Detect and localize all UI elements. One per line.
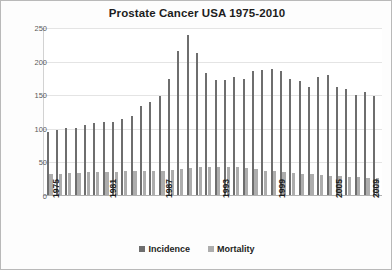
bar-mortality: [273, 171, 276, 195]
x-axis-ticks: 1975198119871993199920052009: [43, 198, 382, 240]
page-title: Prostate Cancer USA 1975-2010: [1, 7, 392, 19]
bar-group: [344, 28, 353, 195]
bar-group: [82, 28, 91, 195]
bar-group: [101, 28, 110, 195]
bar-group: [166, 28, 175, 195]
bar-group: [232, 28, 241, 195]
bar-group: [288, 28, 297, 195]
bar-group: [334, 28, 343, 195]
bar-mortality: [245, 168, 248, 195]
bar-mortality: [264, 171, 267, 195]
bar-group: [176, 28, 185, 195]
bar-mortality: [366, 178, 369, 195]
y-tick-label: 150: [21, 91, 47, 100]
bar-mortality: [180, 169, 183, 195]
bar-mortality: [310, 174, 313, 195]
bar-group: [306, 28, 315, 195]
y-tick-label: 50: [21, 158, 47, 167]
y-tick-label: 200: [21, 57, 47, 66]
bar-group: [54, 28, 63, 195]
bar-group: [45, 28, 54, 195]
bar-group: [213, 28, 222, 195]
bar-mortality: [143, 171, 146, 195]
bar-mortality: [87, 172, 90, 195]
bar-mortality: [357, 177, 360, 195]
y-tick-label: 250: [21, 24, 47, 33]
bar-mortality: [236, 167, 239, 195]
bar-mortality: [301, 174, 304, 196]
bar-mortality: [329, 176, 332, 195]
bar-group: [250, 28, 259, 195]
bar-group: [129, 28, 138, 195]
legend-item[interactable]: Incidence: [139, 244, 190, 254]
bar-group: [185, 28, 194, 195]
bar-mortality: [292, 173, 295, 195]
bar-mortality: [96, 172, 99, 195]
bar-group: [204, 28, 213, 195]
y-tick-label: 100: [21, 124, 47, 133]
bar-group: [353, 28, 362, 195]
x-tick-label: 1987: [164, 179, 174, 198]
bar-mortality: [217, 167, 220, 195]
bar-mortality: [124, 171, 127, 195]
x-tick-label: 1993: [221, 179, 231, 198]
bar-group: [222, 28, 231, 195]
bar-mortality: [68, 173, 71, 195]
chart-figure: Prostate Cancer USA 1975-2010 Age Adjust…: [0, 0, 392, 270]
bar-group: [269, 28, 278, 195]
bar-series-container: [44, 28, 382, 195]
bar-mortality: [254, 169, 257, 195]
bar-group: [241, 28, 250, 195]
plot-area: [43, 28, 382, 196]
x-tick-label: 1999: [277, 179, 287, 198]
bar-mortality: [189, 168, 192, 195]
bar-group: [110, 28, 119, 195]
bar-group: [316, 28, 325, 195]
bar-group: [148, 28, 157, 195]
bar-group: [371, 28, 380, 195]
legend-swatch-icon: [208, 246, 214, 252]
bar-group: [278, 28, 287, 195]
bar-group: [64, 28, 73, 195]
bar-group: [362, 28, 371, 195]
bar-group: [325, 28, 334, 195]
legend-label: Mortality: [217, 244, 255, 254]
legend-label: Incidence: [148, 244, 190, 254]
legend-item[interactable]: Mortality: [208, 244, 255, 254]
bar-mortality: [152, 171, 155, 195]
bar-group: [138, 28, 147, 195]
x-tick-label: 2005: [334, 179, 344, 198]
legend-swatch-icon: [139, 246, 145, 252]
bar-group: [297, 28, 306, 195]
chart-legend: IncidenceMortality: [1, 244, 392, 254]
bar-mortality: [133, 171, 136, 195]
bar-group: [73, 28, 82, 195]
bar-mortality: [348, 177, 351, 195]
bar-mortality: [199, 167, 202, 195]
bar-group: [120, 28, 129, 195]
bar-group: [260, 28, 269, 195]
bar-mortality: [208, 167, 211, 195]
bar-group: [157, 28, 166, 195]
bar-group: [92, 28, 101, 195]
x-tick-label: 1981: [108, 179, 118, 198]
bar-mortality: [320, 175, 323, 195]
x-tick-label: 1975: [51, 179, 61, 198]
x-tick-label: 2009: [371, 179, 381, 198]
bar-group: [194, 28, 203, 195]
bar-mortality: [77, 173, 80, 195]
